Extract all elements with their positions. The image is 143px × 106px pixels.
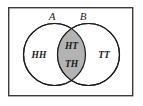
set-b-label: B xyxy=(80,10,87,22)
region-intersection-top-label: HT xyxy=(64,41,79,51)
region-intersection-bottom-label: TH xyxy=(65,59,79,69)
venn-diagram-figure: A B HH HT TH TT xyxy=(0,0,143,106)
region-b-only-label: TT xyxy=(98,50,111,60)
set-a-label: A xyxy=(48,10,56,22)
region-a-only-label: HH xyxy=(31,50,47,60)
venn-diagram-canvas: A B HH HT TH TT xyxy=(0,0,143,106)
